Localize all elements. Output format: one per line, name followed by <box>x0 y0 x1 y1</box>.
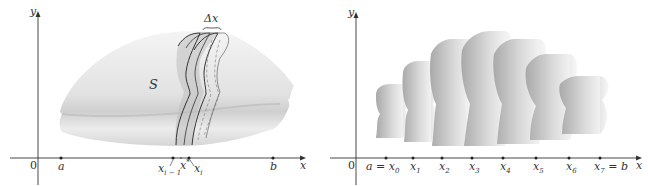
point-x2-label: x2 <box>439 161 450 175</box>
left-x-axis-label: x <box>300 160 306 171</box>
point-x4-label: x4 <box>500 161 511 175</box>
left-figure <box>10 11 306 185</box>
point-x3-label: x3 <box>469 161 480 175</box>
point-x0-label: a = x0 <box>366 161 399 175</box>
left-y-arrow-icon <box>36 11 41 17</box>
right-y-arrow-icon <box>354 12 359 18</box>
right-x-axis-label: x <box>636 160 642 171</box>
point-x-i-label: xi <box>194 163 202 177</box>
left-origin-label: 0 <box>30 160 37 171</box>
point-x-i-minus-1-label: xi − 1 <box>158 163 181 177</box>
point-b-label: b <box>270 161 277 172</box>
right-y-axis-label: y <box>348 7 354 18</box>
point-a-label: a <box>58 161 65 172</box>
right-origin-label: 0 <box>348 160 355 171</box>
diagram-canvas <box>0 0 648 186</box>
point-x5-label: x5 <box>533 161 544 175</box>
delta-x-label: Δx <box>204 13 218 24</box>
point-x7-label: x7 = b <box>594 161 628 175</box>
point-x6-label: x6 <box>566 161 577 175</box>
solid-s-label: S <box>149 78 158 91</box>
delta-x-brace <box>203 28 221 30</box>
point-x1-label: x1 <box>410 161 421 175</box>
left-y-axis-label: y <box>30 6 36 17</box>
slab-7 <box>559 76 608 134</box>
point-x-i-star-label: x* <box>180 159 190 171</box>
